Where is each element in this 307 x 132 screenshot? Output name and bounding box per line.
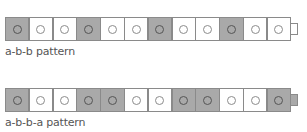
circle-icon	[155, 25, 164, 34]
circle-icon	[84, 25, 93, 34]
cube-train-abba	[5, 88, 298, 112]
cube-shaded	[195, 88, 219, 112]
circle-icon	[251, 25, 260, 34]
circle-icon	[155, 96, 164, 105]
circle-icon	[60, 25, 69, 34]
cube-shaded	[100, 88, 124, 112]
cube-shaded	[267, 88, 291, 112]
cube-white	[124, 88, 148, 112]
cube-white	[148, 88, 172, 112]
circle-icon	[132, 25, 141, 34]
circle-icon	[36, 96, 45, 105]
cube-white	[124, 17, 148, 41]
cube-white	[53, 17, 77, 41]
circle-icon	[179, 25, 188, 34]
pattern-label-abba: a-b-b-a pattern	[5, 116, 85, 129]
cube-white	[29, 17, 53, 41]
cube-shaded	[5, 17, 29, 41]
cube-white	[243, 17, 267, 41]
cube-train-abb	[5, 17, 298, 41]
connector-nub	[291, 94, 298, 106]
cube-white	[267, 17, 291, 41]
circle-icon	[108, 96, 117, 105]
circle-icon	[108, 25, 117, 34]
cube-shaded	[172, 88, 196, 112]
cube-white	[243, 88, 267, 112]
circle-icon	[203, 25, 212, 34]
cube-white	[53, 88, 77, 112]
circle-icon	[227, 25, 236, 34]
cube-shaded	[76, 88, 100, 112]
cube-shaded	[5, 88, 29, 112]
cube-white	[219, 88, 243, 112]
cube-white	[195, 17, 219, 41]
connector-nub	[291, 23, 298, 35]
circle-icon	[132, 96, 141, 105]
circle-icon	[274, 96, 283, 105]
cube-white	[172, 17, 196, 41]
cube-shaded	[76, 17, 100, 41]
circle-icon	[251, 96, 260, 105]
cube-shaded	[219, 17, 243, 41]
circle-icon	[60, 96, 69, 105]
cube-shaded	[148, 17, 172, 41]
circle-icon	[203, 96, 212, 105]
circle-icon	[179, 96, 188, 105]
circle-icon	[13, 25, 22, 34]
pattern-label-abb: a-b-b pattern	[5, 45, 75, 58]
circle-icon	[227, 96, 236, 105]
cube-white	[29, 88, 53, 112]
circle-icon	[13, 96, 22, 105]
circle-icon	[36, 25, 45, 34]
cube-white	[100, 17, 124, 41]
circle-icon	[274, 25, 283, 34]
circle-icon	[84, 96, 93, 105]
